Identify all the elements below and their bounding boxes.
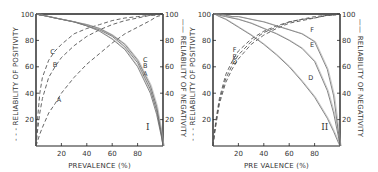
y-tick-left: 20 xyxy=(202,116,211,124)
y-tick-left: 100 xyxy=(198,11,211,19)
curve-label: F xyxy=(310,26,314,34)
y-axis-label-left: - - - RELIABILITY OF POSITIVITY xyxy=(12,27,20,141)
chart-svg-2: 202040406060808010010020406080PRE VALENC… xyxy=(189,0,378,172)
y-tick-left: 80 xyxy=(25,37,34,45)
y-tick-left: 60 xyxy=(202,63,211,71)
y-tick-right: 100 xyxy=(342,11,355,19)
x-tick: 20 xyxy=(234,150,243,158)
y-tick-right: 40 xyxy=(165,90,174,98)
y-axis-label-left: - - - RELIABILITY OF POSITIVITY xyxy=(189,27,197,141)
y-tick-right: 80 xyxy=(342,37,351,45)
y-tick-left: 40 xyxy=(25,90,34,98)
y-tick-right: 20 xyxy=(342,116,351,124)
y-tick-right: 100 xyxy=(165,11,178,19)
y-tick-right: 80 xyxy=(165,37,174,45)
y-axis-label-right: —— RELIABILITY OF NEGATIVITY xyxy=(356,19,364,138)
x-tick: 40 xyxy=(259,150,268,158)
y-tick-left: 20 xyxy=(25,116,34,124)
curve-a-negativity xyxy=(36,14,163,146)
y-tick-left: 80 xyxy=(202,37,211,45)
x-axis-label: PREVALENCE (%) xyxy=(68,162,131,170)
panel-label: II xyxy=(321,122,329,132)
curve-label: D xyxy=(308,74,313,82)
curve-label: B xyxy=(53,61,57,69)
y-tick-right: 20 xyxy=(165,116,174,124)
chart-svg-1: 202040406060808010010020406080PREVALENCE… xyxy=(0,0,189,172)
curve-label: A xyxy=(57,96,62,104)
x-tick: 60 xyxy=(108,150,117,158)
y-tick-right: 60 xyxy=(342,63,351,71)
y-tick-left: 40 xyxy=(202,90,211,98)
curve-label: C xyxy=(143,56,148,64)
curve-label: F xyxy=(233,46,237,54)
y-tick-right: 60 xyxy=(165,63,174,71)
x-tick: 60 xyxy=(285,150,294,158)
x-axis-label: PRE VALENCE (%) xyxy=(244,162,309,170)
panel-label: I xyxy=(146,122,150,132)
x-tick: 40 xyxy=(82,150,91,158)
chart-panel-2: 202040406060808010010020406080PRE VALENC… xyxy=(189,0,378,172)
y-axis-label-right: —— RELIABILITY OF NEGATIVITY xyxy=(179,19,187,138)
y-tick-right: 40 xyxy=(342,90,351,98)
y-tick-left: 100 xyxy=(21,11,34,19)
x-tick: 80 xyxy=(310,150,319,158)
x-tick: 80 xyxy=(133,150,142,158)
curve-label: C xyxy=(50,48,55,56)
curve-label: E xyxy=(310,41,314,49)
chart-panel-1: 202040406060808010010020406080PREVALENCE… xyxy=(0,0,189,172)
y-tick-left: 60 xyxy=(25,63,34,71)
x-tick: 20 xyxy=(57,150,66,158)
